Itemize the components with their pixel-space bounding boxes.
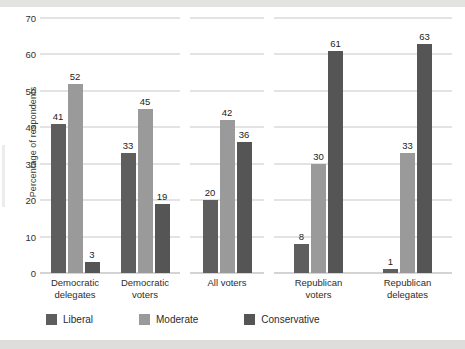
bar-group: 13363Republicandelegates	[383, 18, 432, 273]
x-axis-group-label: Democraticvoters	[108, 277, 182, 300]
chart-legend: LiberalModerateConservative	[46, 314, 320, 325]
bar-slot: 52	[68, 18, 83, 273]
group-label-line1: Democratic	[108, 277, 182, 289]
bar-liberal	[294, 244, 309, 273]
bar-value-label: 8	[299, 231, 304, 242]
bar-value-label: 33	[402, 140, 413, 151]
y-axis-tick-40: 40	[14, 122, 36, 133]
bar-value-label: 36	[239, 129, 250, 140]
group-label-line1: Republican	[371, 277, 445, 289]
bar-slot: 42	[220, 18, 235, 273]
bar-conservative	[155, 204, 170, 273]
legend-swatch-icon	[244, 314, 255, 325]
chart-panel-0: 41523Democraticdelegates334519Democratic…	[40, 18, 180, 273]
bar-moderate	[220, 120, 235, 273]
bar-group: 334519Democraticvoters	[121, 18, 170, 273]
y-axis-tick-50: 50	[14, 85, 36, 96]
bar-liberal	[203, 200, 218, 273]
group-label-line1: Democratic	[38, 277, 112, 289]
group-label-line1: All voters	[190, 277, 264, 289]
panel-bars: 83061Republicanvoters13363Republicandele…	[274, 18, 452, 273]
bar-slot: 3	[85, 18, 100, 273]
bar-value-label: 20	[205, 187, 216, 198]
bar-value-label: 42	[222, 107, 233, 118]
bar-slot: 45	[138, 18, 153, 273]
bar-slot: 1	[383, 18, 398, 273]
bar-value-label: 41	[53, 111, 64, 122]
group-label-line1: Republican	[282, 277, 356, 289]
bar-slot: 36	[237, 18, 252, 273]
bar-slot: 41	[51, 18, 66, 273]
x-axis-group-label: Democraticdelegates	[38, 277, 112, 300]
bar-slot: 8	[294, 18, 309, 273]
legend-label: Moderate	[156, 314, 198, 325]
legend-swatch-icon	[139, 314, 150, 325]
chart-panel-2: 83061Republicanvoters13363Republicandele…	[274, 18, 452, 273]
bar-value-label: 3	[89, 249, 94, 260]
bar-slot: 19	[155, 18, 170, 273]
bar-liberal	[121, 153, 136, 273]
bar-conservative	[328, 51, 343, 273]
bar-value-label: 33	[123, 140, 134, 151]
bar-value-label: 45	[140, 96, 151, 107]
y-axis-tick-30: 30	[14, 158, 36, 169]
bar-group: 83061Republicanvoters	[294, 18, 343, 273]
chart-panel-1: 204236All voters	[190, 18, 264, 273]
y-axis-tick-20: 20	[14, 195, 36, 206]
x-axis-group-label: Republicandelegates	[371, 277, 445, 300]
bar-value-label: 61	[330, 38, 341, 49]
y-axis-title: Percentage of respondents	[28, 32, 38, 252]
bar-slot: 30	[311, 18, 326, 273]
bar-moderate	[68, 84, 83, 273]
bar-slot: 33	[400, 18, 415, 273]
bar-moderate	[138, 109, 153, 273]
plot-area: 010203040506070 41523Democraticdelegates…	[40, 18, 452, 273]
bar-liberal	[51, 124, 66, 273]
bar-value-label: 19	[157, 191, 168, 202]
bar-group: 41523Democraticdelegates	[51, 18, 100, 273]
group-label-line2: voters	[108, 289, 182, 301]
legend-swatch-icon	[46, 314, 57, 325]
bar-conservative	[85, 262, 100, 273]
page-scan-band-bottom	[0, 340, 465, 349]
bar-value-label: 30	[313, 151, 324, 162]
y-axis-tick-60: 60	[14, 49, 36, 60]
bar-slot: 33	[121, 18, 136, 273]
bar-moderate	[311, 164, 326, 273]
bar-moderate	[400, 153, 415, 273]
panel-bars: 41523Democraticdelegates334519Democratic…	[40, 18, 180, 273]
bar-slot: 20	[203, 18, 218, 273]
panel-container: 41523Democraticdelegates334519Democratic…	[40, 18, 452, 273]
panel-bars: 204236All voters	[190, 18, 264, 273]
bar-liberal	[383, 269, 398, 273]
bar-value-label: 52	[70, 71, 81, 82]
bar-conservative	[237, 142, 252, 273]
legend-label: Liberal	[63, 314, 93, 325]
legend-item-liberal: Liberal	[46, 314, 93, 325]
legend-label: Conservative	[261, 314, 319, 325]
legend-item-conservative: Conservative	[244, 314, 319, 325]
y-axis-tick-70: 70	[14, 13, 36, 24]
page-scan-band-top	[0, 0, 465, 7]
bar-value-label: 1	[388, 256, 393, 267]
bar-group: 204236All voters	[203, 18, 252, 273]
y-axis-tick-10: 10	[14, 231, 36, 242]
group-label-line2: delegates	[38, 289, 112, 301]
bar-slot: 61	[328, 18, 343, 273]
y-axis-tick-0: 0	[14, 268, 36, 279]
legend-item-moderate: Moderate	[139, 314, 198, 325]
bar-chart-figure: Percentage of respondents 01020304050607…	[0, 0, 465, 349]
x-axis-group-label: All voters	[190, 277, 264, 289]
page-scan-mark-left	[2, 145, 5, 207]
bar-slot: 63	[417, 18, 432, 273]
x-axis-group-label: Republicanvoters	[282, 277, 356, 300]
bar-value-label: 63	[419, 31, 430, 42]
group-label-line2: voters	[282, 289, 356, 301]
group-label-line2: delegates	[371, 289, 445, 301]
bar-conservative	[417, 44, 432, 274]
